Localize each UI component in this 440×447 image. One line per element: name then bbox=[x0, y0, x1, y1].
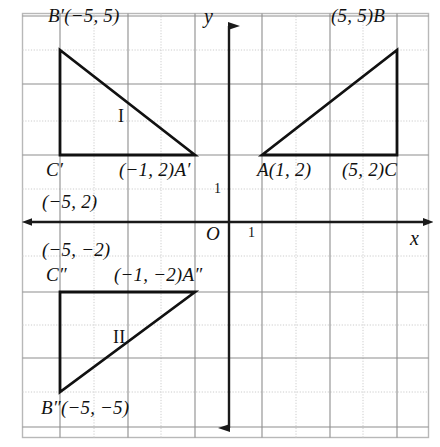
vertex-label-c-prime: C′ bbox=[46, 160, 63, 179]
vertex-label-c: (5, 2)C bbox=[342, 160, 397, 179]
coords-label-c-prime: (−5, 2) bbox=[42, 192, 97, 211]
vertex-label-a-prime: (−1, 2)A′ bbox=[119, 160, 191, 179]
vertex-label-b-prime: B′(−5, 5) bbox=[48, 6, 120, 25]
vertex-label-c-double-prime: C″ bbox=[46, 265, 67, 284]
vertex-label-a: A(1, 2) bbox=[257, 160, 311, 179]
y-axis-tick-one: 1 bbox=[214, 182, 221, 196]
coords-label-c-double-prime: (−5, −2) bbox=[42, 240, 110, 259]
origin-label: O bbox=[206, 224, 220, 243]
x-axis-label: x bbox=[410, 228, 419, 248]
region-label-one: I bbox=[118, 107, 124, 125]
plot-canvas bbox=[0, 0, 440, 447]
coordinate-plane-figure: B′(−5, 5) (5, 5)B y I C′ (−1, 2)A′ A(1, … bbox=[0, 0, 440, 447]
vertex-label-b-double-prime: B″(−5, −5) bbox=[41, 398, 129, 417]
y-axis-label: y bbox=[204, 6, 213, 26]
vertex-label-a-double-prime: (−1, −2)A″ bbox=[114, 265, 202, 284]
vertex-label-b: (5, 5)B bbox=[331, 6, 385, 25]
region-label-two: II bbox=[113, 328, 125, 346]
x-axis-tick-one: 1 bbox=[248, 226, 255, 240]
